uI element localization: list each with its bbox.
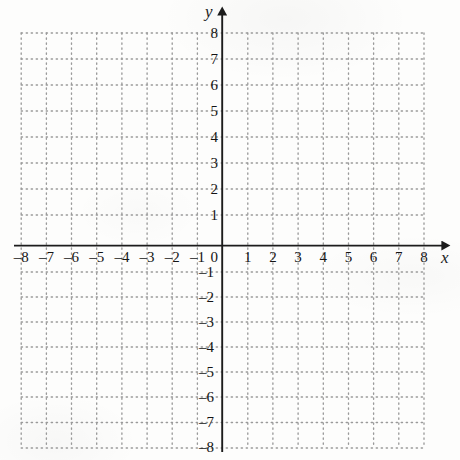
y-tick-label: –7 (190, 415, 214, 430)
x-tick-label: –4 (110, 250, 134, 265)
x-tick-label: 5 (337, 250, 361, 265)
y-tick-label: –4 (190, 340, 214, 355)
y-tick-label: 3 (194, 156, 218, 171)
x-tick-label: –7 (34, 250, 58, 265)
coordinate-grid-figure: y x 0 –8 –7 –6 –5 –4 –3 –2 –1 1 2 3 4 5 … (0, 0, 460, 460)
y-tick-label: 6 (194, 78, 218, 93)
y-axis-label: y (205, 2, 213, 22)
y-tick-label: 2 (194, 182, 218, 197)
y-tick-label: 8 (194, 26, 218, 41)
x-tick-label: –1 (185, 250, 209, 265)
x-tick-label: –3 (135, 250, 159, 265)
x-tick-label: 6 (362, 250, 386, 265)
x-tick-label: 1 (236, 250, 260, 265)
y-tick-label: –1 (190, 265, 214, 280)
x-axis-label: x (441, 248, 449, 268)
x-tick-label: 8 (412, 250, 436, 265)
x-tick-label: –6 (60, 250, 84, 265)
y-tick-label: 1 (194, 208, 218, 223)
x-tick-label: 7 (387, 250, 411, 265)
y-tick-label: 5 (194, 104, 218, 119)
x-tick-label: 4 (311, 250, 335, 265)
y-tick-label: –2 (190, 290, 214, 305)
y-tick-label: –8 (190, 440, 214, 455)
y-tick-label: –6 (190, 390, 214, 405)
x-tick-label: –5 (85, 250, 109, 265)
x-tick-label: –8 (9, 250, 33, 265)
y-tick-label: –5 (190, 365, 214, 380)
x-tick-label: 3 (286, 250, 310, 265)
y-tick-label: –3 (190, 315, 214, 330)
x-tick-label: –2 (160, 250, 184, 265)
x-tick-label: 2 (261, 250, 285, 265)
coordinate-plane-svg (0, 0, 460, 460)
y-tick-label: 4 (194, 130, 218, 145)
y-tick-label: 7 (194, 52, 218, 67)
